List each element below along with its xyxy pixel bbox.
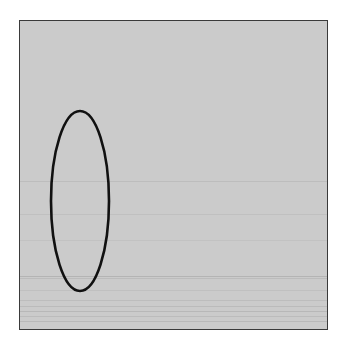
ellipse-outline xyxy=(51,111,109,291)
ellipse-overlay xyxy=(0,0,343,347)
